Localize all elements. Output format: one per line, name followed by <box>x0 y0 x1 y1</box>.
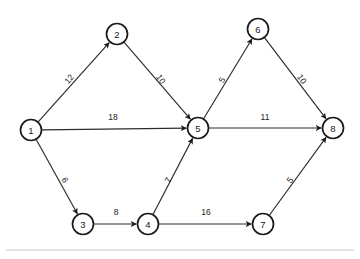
edge-4-to-5 <box>153 138 192 214</box>
node-label-2: 2 <box>114 29 119 40</box>
node-3[interactable]: 3 <box>73 214 94 235</box>
edge-1-to-2 <box>38 43 109 122</box>
node-1[interactable]: 1 <box>21 120 42 141</box>
edge-1-to-3 <box>36 140 77 214</box>
edges-layer <box>36 38 326 224</box>
node-label-6: 6 <box>255 24 260 35</box>
node-7[interactable]: 7 <box>253 214 274 235</box>
node-6[interactable]: 6 <box>248 19 269 40</box>
node-label-8: 8 <box>330 123 335 134</box>
edge-weight-1-3: 6 <box>59 176 70 185</box>
nodes-layer: 12345678 <box>21 19 344 235</box>
network-diagram: 12101868716511105 12345678 <box>0 0 360 259</box>
edge-7-to-8 <box>270 137 327 215</box>
node-label-7: 7 <box>260 219 265 230</box>
edge-weight-4-7: 16 <box>201 207 211 217</box>
node-label-1: 1 <box>28 125 33 136</box>
node-4[interactable]: 4 <box>138 214 159 235</box>
edge-weight-7-8: 5 <box>285 175 296 185</box>
node-5[interactable]: 5 <box>188 118 209 139</box>
edge-labels-layer: 12101868716511105 <box>59 72 308 217</box>
node-8[interactable]: 8 <box>323 118 344 139</box>
edge-weight-1-2: 12 <box>62 72 76 86</box>
edge-weight-6-8: 10 <box>295 72 309 86</box>
node-2[interactable]: 2 <box>107 24 128 45</box>
edge-1-to-5 <box>42 128 186 130</box>
node-label-5: 5 <box>195 123 200 134</box>
edge-weight-2-5: 10 <box>154 72 168 86</box>
diagram-canvas: 12101868716511105 12345678 <box>0 0 360 259</box>
node-label-3: 3 <box>80 219 85 230</box>
edge-weight-1-5: 18 <box>108 112 118 122</box>
edge-6-to-8 <box>265 38 326 119</box>
edge-weight-4-5: 7 <box>162 175 173 184</box>
node-label-4: 4 <box>145 219 150 230</box>
edge-5-to-6 <box>204 39 252 119</box>
edge-weight-5-6: 5 <box>217 75 228 85</box>
edge-weight-5-8: 11 <box>261 112 270 122</box>
edge-weight-3-4: 8 <box>114 207 119 217</box>
